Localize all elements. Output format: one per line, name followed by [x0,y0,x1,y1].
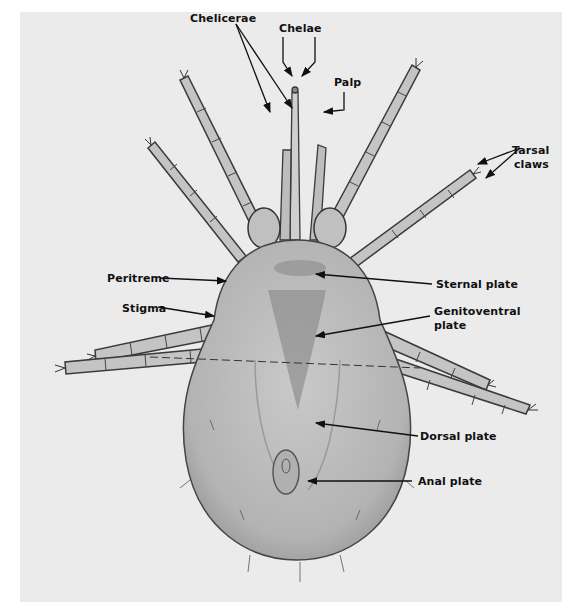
label-chelae: Chelae [279,22,322,35]
label-dorsal-plate: Dorsal plate [420,430,497,443]
leg-2-right [345,170,476,270]
chelae-pointer-right [302,37,315,76]
leg-2-left [148,142,246,262]
chelicerae [290,92,300,240]
palp-left [280,150,291,240]
label-tarsal-claws-2: claws [514,158,549,171]
label-palp: Palp [334,76,361,89]
chelae-pointer-left [283,37,292,76]
label-stigma: Stigma [122,302,166,315]
label-genitoventral-plate-1: Genitoventral [434,305,521,318]
anal-plate [273,450,299,494]
label-peritreme: Peritreme [107,272,170,285]
label-anal-plate: Anal plate [418,475,482,488]
label-sternal-plate: Sternal plate [436,278,518,291]
stigma-pointer [158,307,214,316]
label-genitoventral-plate-2: plate [434,319,466,332]
peritreme-pointer [160,278,226,281]
label-tarsal-claws-1: Tarsal [512,144,549,157]
palp-pointer [324,92,344,112]
label-chelicerae: Chelicerae [190,12,256,25]
